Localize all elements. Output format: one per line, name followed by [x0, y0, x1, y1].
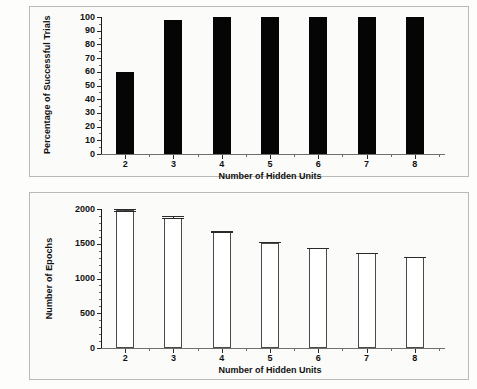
- x-tick-label: 7: [347, 159, 387, 169]
- y-tick-mark: [97, 154, 101, 155]
- y-minor-tick: [99, 133, 101, 134]
- y-tick-mark: [97, 72, 101, 73]
- y-tick-mark: [97, 140, 101, 141]
- y-tick-mark: [97, 127, 101, 128]
- y-tick-label: 60: [73, 67, 95, 76]
- y-minor-tick: [99, 223, 101, 224]
- bar: [116, 72, 134, 154]
- y-tick-mark: [97, 44, 101, 45]
- bar: [116, 210, 134, 348]
- y-minor-tick: [99, 299, 101, 300]
- x-minor-tick: [149, 155, 150, 157]
- bar: [213, 17, 231, 154]
- x-tick-label: 3: [153, 159, 193, 169]
- y-tick-mark: [97, 86, 101, 87]
- x-tick-label: 6: [298, 159, 338, 169]
- y-minor-tick: [99, 306, 101, 307]
- y-minor-tick: [99, 237, 101, 238]
- y-tick-mark: [97, 209, 101, 210]
- y-axis-line: [101, 209, 102, 348]
- y-tick-label: 50: [73, 81, 95, 90]
- y-minor-tick: [99, 230, 101, 231]
- x-minor-tick: [342, 349, 343, 351]
- x-minor-tick: [294, 155, 295, 157]
- y-tick-label: 90: [73, 26, 95, 35]
- y-minor-tick: [99, 292, 101, 293]
- x-minor-tick: [342, 155, 343, 157]
- y-tick-mark: [97, 348, 101, 349]
- x-minor-tick: [439, 155, 440, 157]
- y-tick-label: 80: [73, 40, 95, 49]
- x-minor-tick: [246, 155, 247, 157]
- error-bar: [307, 248, 329, 249]
- x-axis-title-top: Number of Hidden Units: [101, 171, 439, 181]
- bar: [358, 253, 376, 348]
- y-minor-tick: [99, 24, 101, 25]
- y-tick-mark: [97, 31, 101, 32]
- y-minor-tick: [99, 147, 101, 148]
- y-minor-tick: [99, 65, 101, 66]
- y-tick-mark: [97, 99, 101, 100]
- x-minor-tick: [198, 155, 199, 157]
- y-minor-tick: [99, 272, 101, 273]
- plot-area-bottom: 05001000150020002345678: [101, 209, 439, 348]
- x-tick-label: 4: [202, 353, 242, 363]
- y-tick-label: 1000: [69, 274, 95, 283]
- y-minor-tick: [99, 251, 101, 252]
- y-minor-tick: [99, 341, 101, 342]
- y-tick-mark: [97, 313, 101, 314]
- x-minor-tick: [391, 155, 392, 157]
- x-axis-line: [101, 154, 445, 155]
- x-tick-label: 8: [395, 159, 435, 169]
- x-axis-line: [101, 348, 445, 349]
- y-minor-tick: [99, 120, 101, 121]
- bar: [406, 257, 424, 348]
- y-minor-tick: [99, 327, 101, 328]
- x-tick-label: 6: [298, 353, 338, 363]
- y-tick-mark: [97, 17, 101, 18]
- y-minor-tick: [99, 265, 101, 266]
- x-tick-label: 2: [105, 353, 145, 363]
- x-minor-tick: [149, 349, 150, 351]
- bar: [164, 218, 182, 348]
- error-bar: [404, 257, 426, 258]
- x-tick-label: 2: [105, 159, 145, 169]
- x-minor-tick: [294, 349, 295, 351]
- x-minor-tick: [439, 349, 440, 351]
- y-minor-tick: [99, 334, 101, 335]
- y-axis-title-bottom: Number of Epochs: [44, 209, 54, 348]
- x-tick-label: 7: [347, 353, 387, 363]
- x-tick-label: 5: [250, 159, 290, 169]
- y-minor-tick: [99, 216, 101, 217]
- y-tick-mark: [97, 279, 101, 280]
- bar: [261, 243, 279, 348]
- y-tick-mark: [97, 244, 101, 245]
- x-minor-tick: [391, 349, 392, 351]
- y-tick-label: 70: [73, 54, 95, 63]
- y-minor-tick: [99, 285, 101, 286]
- y-minor-tick: [99, 320, 101, 321]
- y-minor-tick: [99, 79, 101, 80]
- x-minor-tick: [246, 349, 247, 351]
- bar: [261, 17, 279, 154]
- y-tick-label: 30: [73, 108, 95, 117]
- y-tick-label: 100: [73, 13, 95, 22]
- x-minor-tick: [198, 349, 199, 351]
- x-tick-label: 5: [250, 353, 290, 363]
- y-tick-label: 500: [69, 309, 95, 318]
- bar: [309, 248, 327, 348]
- chart-panel-top: Percentage of Successful Trials 01020304…: [29, 6, 469, 177]
- plot-area-top: 01020304050607080901002345678: [101, 17, 439, 154]
- y-axis-title-top: Percentage of Successful Trials: [42, 17, 52, 154]
- x-tick-label: 3: [153, 353, 193, 363]
- y-tick-label: 10: [73, 136, 95, 145]
- y-minor-tick: [99, 51, 101, 52]
- bar: [164, 20, 182, 154]
- y-tick-label: 1500: [69, 239, 95, 248]
- chart-panel-bottom: Number of Epochs 05001000150020002345678…: [29, 192, 469, 380]
- y-tick-label: 20: [73, 122, 95, 131]
- y-axis-line: [101, 17, 102, 154]
- y-minor-tick: [99, 38, 101, 39]
- error-bar: [114, 209, 136, 212]
- y-minor-tick: [99, 258, 101, 259]
